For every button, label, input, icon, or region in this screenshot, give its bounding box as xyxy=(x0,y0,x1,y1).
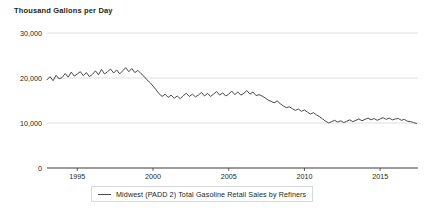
x-axis-tick-label: 2000 xyxy=(145,172,161,181)
y-axis-tick-label: 0 xyxy=(38,164,42,173)
x-axis-tick-label: 1995 xyxy=(69,172,85,181)
legend-line-swatch xyxy=(98,194,111,195)
data-series-line xyxy=(47,68,416,124)
y-axis-tick-label: 10,000 xyxy=(20,119,42,128)
chart-figure: Thousand Gallons per Day 010,00020,00030… xyxy=(0,0,435,214)
y-axis-tick-label: 30,000 xyxy=(20,29,42,38)
y-axis-tick-label: 20,000 xyxy=(20,74,42,83)
legend-series-label: Midwest (PADD 2) Total Gasoline Retail S… xyxy=(116,190,306,199)
line-chart-plot: 010,00020,00030,00019952000200520102015 xyxy=(0,0,435,214)
x-axis-tick-label: 2015 xyxy=(372,172,388,181)
x-axis-tick-label: 2005 xyxy=(221,172,237,181)
chart-legend: Midwest (PADD 2) Total Gasoline Retail S… xyxy=(91,186,313,202)
x-axis-tick-label: 2010 xyxy=(296,172,312,181)
